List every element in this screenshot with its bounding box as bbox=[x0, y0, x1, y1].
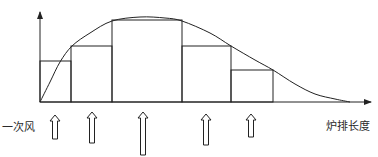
air-zone-step-5 bbox=[231, 70, 273, 102]
up-arrow-icon bbox=[246, 114, 256, 137]
air-zone-step-4 bbox=[182, 46, 231, 102]
grate-air-distribution-diagram bbox=[0, 0, 378, 157]
up-arrow-icon bbox=[50, 115, 60, 139]
up-arrow-icon bbox=[201, 114, 211, 145]
primary-air-arrows bbox=[50, 112, 256, 155]
up-arrow-icon bbox=[87, 112, 97, 143]
air-zone-step-1 bbox=[40, 61, 71, 102]
air-zone-step-2 bbox=[71, 46, 112, 102]
primary-air-label: 一次风 bbox=[2, 118, 35, 134]
up-arrow-icon bbox=[138, 112, 148, 155]
combustion-demand-curve bbox=[40, 17, 350, 102]
air-distribution-steps bbox=[40, 20, 273, 102]
air-zone-step-3 bbox=[112, 20, 182, 102]
grate-length-label: 炉排长度 bbox=[326, 117, 370, 133]
